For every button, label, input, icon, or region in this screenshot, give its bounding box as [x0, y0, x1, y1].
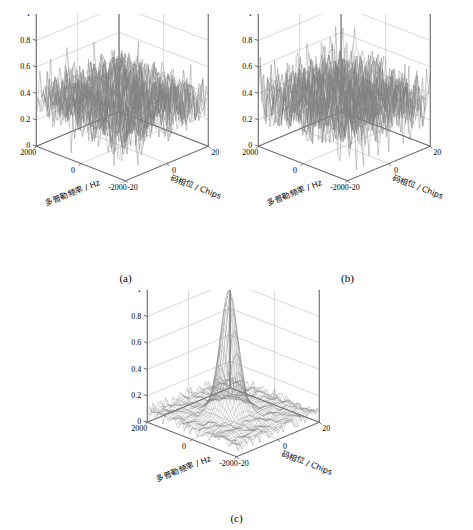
svg-text:0.8: 0.8 [242, 36, 252, 45]
svg-text:20: 20 [322, 424, 330, 433]
svg-text:1: 1 [248, 14, 252, 18]
panel-b: 00.20.40.60.81-20020-200002000归一化相关峰码相位 … [240, 14, 455, 244]
panel-b-caption: (b) [240, 272, 455, 284]
svg-text:码相位 / Chips: 码相位 / Chips [280, 448, 334, 477]
plot-area: 00.20.40.60.81-20020-200002000归一化相关峰码相位 … [240, 14, 455, 244]
surface-mesh [258, 27, 430, 170]
svg-text:0.8: 0.8 [131, 312, 141, 321]
svg-text:0.4: 0.4 [20, 89, 30, 98]
svg-text:0.4: 0.4 [131, 365, 141, 374]
surface-mesh [147, 290, 319, 451]
svg-text:0: 0 [71, 166, 75, 175]
svg-text:0.4: 0.4 [242, 89, 252, 98]
panel-a: 00.20.40.60.81-20020-200002000归一化相关峰码相位 … [18, 14, 233, 244]
svg-text:0.6: 0.6 [131, 338, 141, 347]
svg-text:1: 1 [26, 14, 30, 18]
svg-text:-2000: -2000 [219, 459, 238, 468]
svg-text:多普勒频率 / Hz: 多普勒频率 / Hz [154, 453, 212, 483]
svg-text:-20: -20 [238, 459, 249, 468]
svg-text:码相位 / Chips: 码相位 / Chips [391, 172, 445, 201]
svg-text:0.2: 0.2 [242, 115, 252, 124]
svg-text:20: 20 [433, 148, 441, 157]
svg-text:0.2: 0.2 [20, 115, 30, 124]
svg-text:多普勒频率 / Hz: 多普勒频率 / Hz [43, 177, 101, 207]
surface-mesh [36, 41, 208, 166]
svg-text:0.6: 0.6 [242, 62, 252, 71]
svg-text:1: 1 [137, 290, 141, 294]
plot-area: 00.20.40.60.81-20020-200002000归一化相关峰码相位 … [18, 14, 233, 244]
panel-a-caption: (a) [18, 272, 233, 284]
svg-text:码相位 / Chips: 码相位 / Chips [169, 172, 223, 201]
svg-text:2000: 2000 [242, 148, 258, 157]
svg-text:-20: -20 [349, 183, 360, 192]
svg-text:0.8: 0.8 [20, 36, 30, 45]
svg-text:-2000: -2000 [330, 183, 349, 192]
panel-c: 00.20.40.60.81-20020-200002000归一化相关峰码相位 … [129, 290, 344, 520]
svg-text:多普勒频率 / Hz: 多普勒频率 / Hz [265, 177, 323, 207]
svg-text:0.6: 0.6 [20, 62, 30, 71]
svg-text:-2000: -2000 [108, 183, 127, 192]
svg-text:2000: 2000 [20, 148, 36, 157]
svg-text:0: 0 [182, 442, 186, 451]
panel-c-caption: (c) [129, 512, 344, 524]
svg-text:0.2: 0.2 [131, 391, 141, 400]
svg-text:2000: 2000 [131, 424, 147, 433]
svg-text:0: 0 [293, 166, 297, 175]
svg-text:-20: -20 [127, 183, 138, 192]
plot-area: 00.20.40.60.81-20020-200002000归一化相关峰码相位 … [129, 290, 344, 520]
svg-text:20: 20 [211, 148, 219, 157]
